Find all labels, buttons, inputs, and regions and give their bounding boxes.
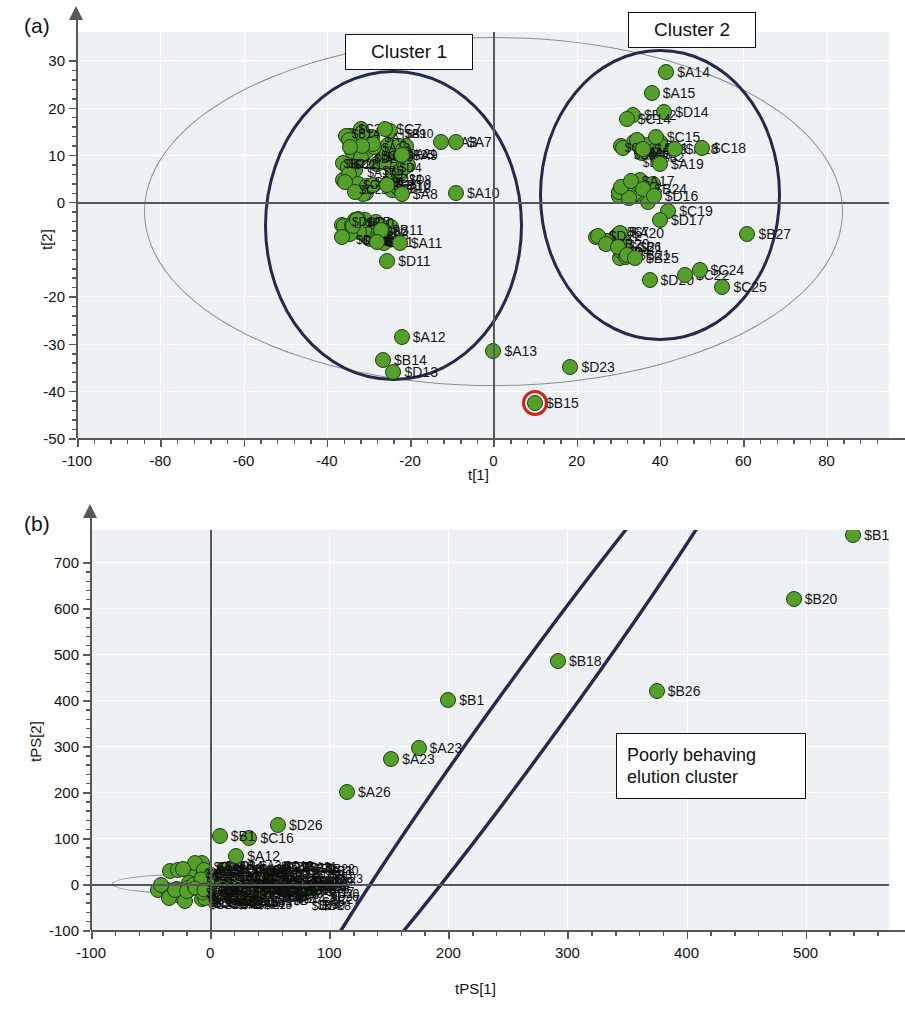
- scatter-point-label: $A23: [402, 751, 435, 767]
- y-axis-tick-label: 500: [31, 646, 79, 663]
- x-axis-tick-label: 60: [735, 452, 752, 469]
- y-axis-tick-label: 300: [31, 738, 79, 755]
- scatter-point-label: $B14: [352, 127, 380, 141]
- y-axis-tick: [86, 590, 90, 592]
- x-axis-tick: [593, 440, 595, 444]
- scatter-point-label: $B26: [668, 683, 701, 699]
- y-axis-tick: [86, 599, 90, 601]
- x-axis-tick: [793, 440, 795, 444]
- y-axis-tick-label: 400: [31, 692, 79, 709]
- scatter-point-label: $A12: [413, 329, 446, 345]
- y-axis-line: [76, 18, 78, 438]
- y-axis-tick-label: 600: [31, 600, 79, 617]
- y-axis-tick: [72, 268, 76, 270]
- x-axis-tick: [782, 932, 784, 936]
- scatter-point-label: $A8: [413, 186, 438, 202]
- scatter-point: [175, 861, 191, 877]
- x-axis-tick: [560, 440, 562, 444]
- scatter-point-label: $B20: [805, 591, 838, 607]
- panel-b-xlabel: tPS[1]: [455, 980, 496, 997]
- y-axis-tick: [86, 737, 90, 739]
- x-axis-tick: [77, 440, 79, 447]
- x-axis-tick: [760, 440, 762, 444]
- y-axis-tick: [72, 136, 76, 138]
- x-axis-tick: [327, 440, 329, 447]
- x-axis-tick-label: 0: [489, 452, 497, 469]
- scatter-point-label: $A25: [258, 863, 286, 877]
- scatter-point: [642, 272, 658, 288]
- y-axis-tick: [86, 912, 90, 914]
- x-axis-tick: [258, 932, 260, 936]
- x-axis-tick: [727, 440, 729, 444]
- highlight-ring-b15: [522, 390, 548, 416]
- x-axis-tick: [460, 440, 462, 444]
- scatter-point-label: $B15: [546, 395, 579, 411]
- y-axis-tick: [86, 774, 90, 776]
- x-axis-tick-label: 20: [568, 452, 585, 469]
- x-axis-tick: [496, 932, 498, 936]
- scatter-point: [212, 828, 228, 844]
- y-axis-tick-label: 10: [17, 146, 65, 163]
- x-axis-tick: [610, 440, 612, 444]
- x-axis-tick-label: 80: [818, 452, 835, 469]
- y-axis-tick: [83, 700, 90, 702]
- x-axis-tick: [210, 440, 212, 444]
- scatter-point: [619, 111, 635, 127]
- y-axis-arrow: [69, 6, 83, 20]
- scatter-point-label: $A13: [504, 343, 537, 359]
- x-axis-tick: [427, 440, 429, 444]
- scatter-point: [377, 121, 393, 137]
- y-axis-tick: [86, 893, 90, 895]
- y-axis-tick: [72, 221, 76, 223]
- y-axis-tick: [86, 728, 90, 730]
- y-axis-tick: [83, 608, 90, 610]
- y-axis-tick-label: -50: [17, 430, 65, 447]
- scatter-point-label: $B22: [344, 157, 372, 171]
- x-axis-tick: [227, 440, 229, 444]
- scatter-point-label: $D11: [398, 253, 430, 269]
- x-axis-tick: [660, 440, 662, 447]
- scatter-point: [379, 253, 395, 269]
- y-axis-tick: [72, 193, 76, 195]
- scatter-point-label: $D17: [671, 212, 704, 228]
- plot-b-area: $A1$B2$C3$D4$A5$B6$C7$D8$A9$B10$C11$D12$…: [91, 530, 889, 930]
- x-axis-tick: [110, 440, 112, 444]
- y-axis-tick: [69, 296, 76, 298]
- x-axis-tick-label: 40: [652, 452, 669, 469]
- scatter-point: [652, 156, 668, 172]
- y-axis-tick-label: 0: [17, 193, 65, 210]
- scatter-point-label: $A29: [325, 875, 353, 889]
- scatter-point-label: $C18: [713, 140, 746, 156]
- y-axis-tick: [86, 847, 90, 849]
- x-axis-tick: [758, 932, 760, 936]
- y-axis-tick: [72, 145, 76, 147]
- x-axis-tick: [94, 440, 96, 444]
- scatter-point: [228, 848, 244, 864]
- x-axis-tick: [567, 932, 569, 939]
- x-axis-tick-label: 500: [793, 944, 818, 961]
- y-axis-tick-label: -100: [31, 922, 79, 939]
- scatter-point: [440, 692, 456, 708]
- y-axis-tick: [86, 810, 90, 812]
- x-axis-tick: [527, 440, 529, 444]
- scatter-point: [562, 359, 578, 375]
- x-axis-tick: [472, 932, 474, 936]
- y-axis-tick: [83, 746, 90, 748]
- x-axis-tick: [477, 440, 479, 444]
- y-axis-tick: [72, 353, 76, 355]
- x-axis-tick: [177, 440, 179, 444]
- scatter-point-label: $C7: [396, 121, 422, 137]
- scatter-point: [627, 250, 643, 266]
- y-axis-tick: [83, 930, 90, 932]
- x-axis-tick: [577, 440, 579, 447]
- panel-b: (b) $A1$B2$C3$D4$A5$B6$C7$D8$A9$B10$C11$…: [0, 490, 905, 1011]
- x-axis-tick: [615, 932, 617, 936]
- x-axis-tick-label: 200: [436, 944, 461, 961]
- scatter-point: [635, 141, 651, 157]
- x-axis-tick: [329, 932, 331, 939]
- y-axis-tick-label: 200: [31, 784, 79, 801]
- x-axis-tick: [305, 932, 307, 936]
- scatter-point-label: $A7: [467, 134, 492, 150]
- scatter-point: [694, 140, 710, 156]
- y-axis-tick: [86, 902, 90, 904]
